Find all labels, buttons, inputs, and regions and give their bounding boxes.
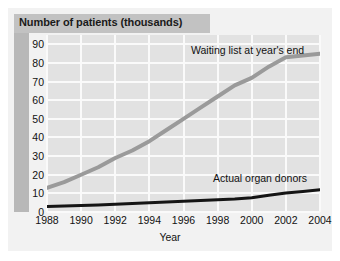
x-axis-label: Year [0,231,340,243]
y-tick-label: 30 [24,150,44,162]
x-tick-label: 2000 [240,214,263,226]
y-axis-ticks: 0102030405060708090 [20,35,44,212]
x-tick-label: 2002 [274,214,297,226]
chart-title: Number of patients (thousands) [19,16,182,28]
y-tick-label: 20 [24,169,44,181]
x-tick-label: 1994 [138,214,161,226]
y-tick-label: 10 [24,187,44,199]
x-axis-ticks: 198819901992199419961998200020022004 [47,214,320,230]
x-tick-label: 1996 [172,214,195,226]
x-tick-label: 2004 [308,214,331,226]
chart-figure: Number of patients (thousands) 010203040… [0,0,340,261]
x-tick-label: 1992 [104,214,127,226]
series-label-waiting-list: Waiting list at year's end [191,44,304,56]
x-tick-label: 1990 [69,214,92,226]
y-tick-label: 70 [24,76,44,88]
x-tick-label: 1998 [206,214,229,226]
y-tick-label: 60 [24,94,44,106]
series-line-waiting-list [47,54,320,188]
series-lines [47,35,320,212]
y-tick-label: 90 [24,38,44,50]
y-tick-label: 80 [24,57,44,69]
x-tick-label: 1988 [35,214,58,226]
series-label-organ-donors: Actual organ donors [213,172,307,184]
series-line-organ-donors [47,190,320,207]
chart-title-band: Number of patients (thousands) [14,14,210,33]
y-tick-label: 40 [24,131,44,143]
plot-area [47,35,320,212]
y-tick-label: 50 [24,113,44,125]
